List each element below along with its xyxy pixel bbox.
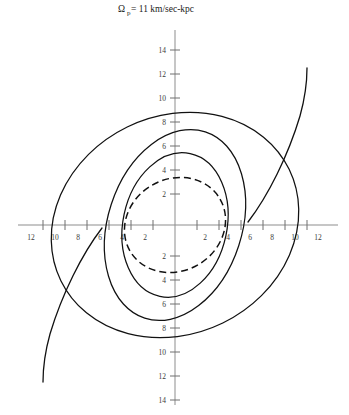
title-omega: Ω <box>118 4 125 14</box>
x-tick-label: 6 <box>98 233 102 242</box>
y-tick-label: 2 <box>162 252 166 261</box>
x-tick-label: 12 <box>314 233 322 242</box>
y-tick-label: 12 <box>159 372 167 381</box>
x-tick-label: 8 <box>270 233 274 242</box>
y-tick-label: 4 <box>162 276 166 285</box>
y-tick-label: 6 <box>162 300 166 309</box>
y-tick-label: 4 <box>162 166 166 175</box>
y-tick-label: 12 <box>159 70 167 79</box>
y-tick-label: 14 <box>159 46 167 55</box>
title-rest: = 11 km/sec-kpc <box>131 4 194 14</box>
x-tick-label: 6 <box>248 233 252 242</box>
y-tick-label: 8 <box>162 324 166 333</box>
y-tick-label: 8 <box>162 118 166 127</box>
x-tick-label: 2 <box>203 233 207 242</box>
x-tick-label: 8 <box>76 233 80 242</box>
y-tick-label: 10 <box>159 94 167 103</box>
y-tick-label: 6 <box>162 142 166 151</box>
x-tick-label: 10 <box>51 233 59 242</box>
x-tick-label: 12 <box>27 233 35 242</box>
y-tick-label: 14 <box>159 396 167 405</box>
y-tick-label: 2 <box>162 190 166 199</box>
y-tick-label: 10 <box>159 348 167 357</box>
axes-group <box>18 30 338 405</box>
figure-title: Ω p = 11 km/sec-kpc <box>118 4 194 17</box>
orbit-figure: Ω p = 11 km/sec-kpc 12 10 8 6 4 2 2 4 6 … <box>0 0 349 415</box>
x-tick-label: 2 <box>143 233 147 242</box>
